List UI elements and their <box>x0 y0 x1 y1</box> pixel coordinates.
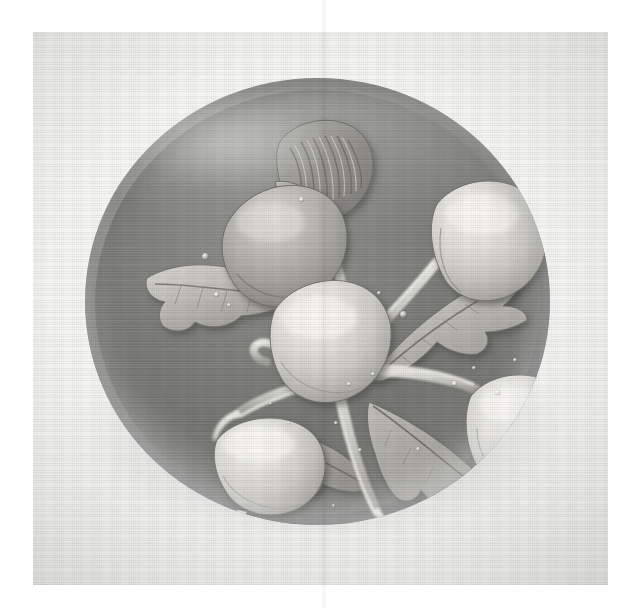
air-bubble <box>452 381 457 386</box>
air-bubble <box>299 197 304 202</box>
fruit-upper-right <box>431 181 547 301</box>
motif-vector <box>85 78 550 525</box>
air-bubble <box>377 291 381 295</box>
photographic-plate <box>33 32 608 585</box>
paperweight-dome <box>85 78 550 525</box>
air-bubble <box>214 292 219 297</box>
air-bubble <box>332 504 335 507</box>
fruit-lower-right <box>466 375 550 486</box>
air-bubble <box>371 372 375 376</box>
air-bubble <box>269 402 272 405</box>
air-bubble <box>513 358 517 362</box>
air-bubble <box>479 518 483 522</box>
air-bubble <box>334 421 338 425</box>
fruit-lower-left <box>214 418 325 525</box>
scanned-page <box>0 0 631 608</box>
air-bubble <box>287 421 290 424</box>
air-bubble <box>347 382 351 386</box>
air-bubble <box>548 406 550 410</box>
fruit-center-left <box>270 280 391 402</box>
air-bubble <box>358 448 362 452</box>
air-bubble <box>400 311 407 318</box>
air-bubble <box>227 303 231 307</box>
air-bubble <box>202 253 209 260</box>
lampwork-motif <box>85 78 550 525</box>
air-bubble <box>472 366 476 370</box>
air-bubble <box>416 447 420 451</box>
air-bubble <box>495 390 500 395</box>
